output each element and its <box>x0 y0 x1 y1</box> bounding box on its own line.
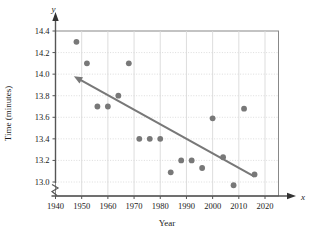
y-tick-label: 13.4 <box>35 134 51 144</box>
data-point <box>220 154 226 160</box>
x-axis-variable-label: x <box>300 192 305 202</box>
data-point <box>241 106 247 112</box>
data-point <box>74 39 80 45</box>
x-tick-labels: 194019501960197019801990200020102020 <box>47 196 274 211</box>
y-tick-label: 13.0 <box>35 177 50 187</box>
data-point <box>157 136 163 142</box>
y-tick-labels: 13.013.213.413.613.814.014.214.4 <box>35 26 56 187</box>
y-tick-label: 14.0 <box>35 69 50 79</box>
x-tick-label: 2010 <box>230 201 247 211</box>
x-tick-label: 1990 <box>178 201 195 211</box>
y-tick-label: 13.6 <box>35 112 50 122</box>
data-point <box>231 182 237 188</box>
x-axis-title: Year <box>159 218 176 228</box>
data-point <box>136 136 142 142</box>
y-axis-variable-label: y <box>51 4 56 14</box>
x-tick-label: 2000 <box>204 201 221 211</box>
data-point <box>199 165 205 171</box>
x-tick-label: 1940 <box>47 201 64 211</box>
data-point <box>105 104 111 110</box>
x-tick-label: 1970 <box>126 201 143 211</box>
data-point <box>115 93 121 99</box>
data-point <box>126 60 132 66</box>
y-tick-label: 13.8 <box>35 91 50 101</box>
data-point <box>84 60 90 66</box>
data-point <box>95 104 101 110</box>
y-tick-label: 14.2 <box>35 48 50 58</box>
x-tick-label: 1960 <box>99 201 116 211</box>
x-tick-label: 1950 <box>73 201 90 211</box>
data-point <box>252 172 258 178</box>
data-point <box>147 136 153 142</box>
x-tick-label: 2020 <box>257 201 274 211</box>
data-point <box>189 158 195 164</box>
data-point <box>168 169 174 175</box>
x-tick-label: 1980 <box>152 201 169 211</box>
y-tick-label: 13.2 <box>35 155 50 165</box>
data-point <box>210 115 216 121</box>
y-tick-label: 14.4 <box>35 26 51 36</box>
scatter-plot-figure: 13.013.213.413.613.814.014.214.4 1940195… <box>0 0 314 246</box>
data-point <box>178 158 184 164</box>
y-axis-title: Time (minutes) <box>3 86 13 141</box>
